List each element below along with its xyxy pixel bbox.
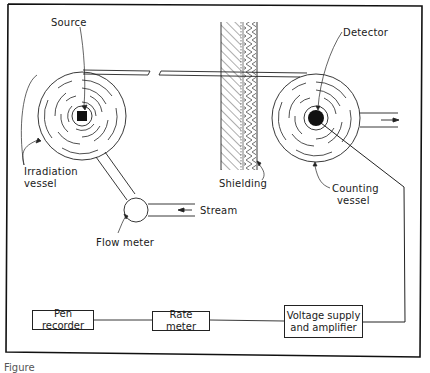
detector-label: Detector	[343, 27, 388, 38]
voltage-supply-label-line1: Voltage supply	[287, 310, 361, 322]
transfer-tube	[83, 70, 307, 77]
figure-caption: Figure	[4, 362, 35, 373]
counting-vessel	[272, 74, 360, 162]
shielding-wall	[221, 22, 257, 170]
outlet-tube	[360, 113, 399, 127]
pen-recorder-label: Pen recorder	[33, 308, 93, 332]
source-label: Source	[51, 17, 87, 28]
flow-meter	[124, 198, 148, 222]
signal-cable	[321, 123, 405, 322]
counting-vessel-label-line2: vessel	[337, 195, 370, 206]
source-block	[77, 111, 87, 121]
inlet-pipe	[96, 152, 135, 200]
counting-vessel-label-line1: Counting	[332, 183, 379, 194]
stream-label: Stream	[200, 205, 237, 216]
rate-meter-box: Rate meter	[152, 311, 210, 331]
irradiation-vessel-label-line2: vessel	[24, 178, 57, 189]
rate-meter-label: Rate meter	[153, 309, 209, 333]
irradiation-vessel-label-line1: Irradiation	[24, 166, 78, 177]
leader-lines	[21, 27, 342, 233]
stream-pipe	[148, 204, 195, 216]
flow-meter-label: Flow meter	[96, 237, 154, 248]
voltage-supply-label-line2: and amplifier	[290, 322, 356, 334]
irradiation-vessel	[38, 72, 126, 160]
shielding-label: Shielding	[219, 178, 267, 189]
pen-recorder-box: Pen recorder	[32, 310, 94, 330]
voltage-supply-box: Voltage supply and amplifier	[284, 305, 363, 338]
